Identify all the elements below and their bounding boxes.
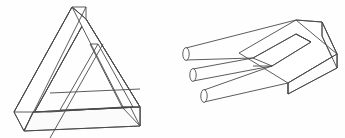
penrose-triangle-group: [14, 7, 140, 138]
penrose-right-bar-inner-edge: [86, 19, 140, 107]
penrose-bar-bottom-front-face: [24, 107, 140, 131]
trident-prong-3-cap: [201, 90, 207, 103]
impossible-trident-group: [183, 20, 337, 102]
trident-middle-rail-bottom-edge: [193, 66, 272, 81]
trident-prong-2-cap: [190, 69, 196, 82]
illustration-canvas: Penrose Triangle Impossible Trident Two …: [0, 0, 345, 138]
trident-lower-rail-top-edge: [204, 66, 272, 90]
penrose-triangle-figure: [0, 0, 345, 138]
trident-prong-1-cap: [183, 48, 189, 61]
